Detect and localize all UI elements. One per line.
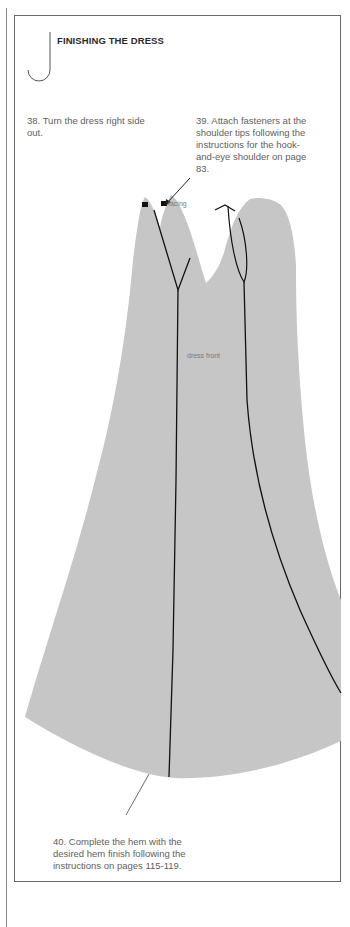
armhole-seam [215, 205, 235, 211]
step-40-text: 40. Complete the hem with the desired he… [53, 836, 193, 872]
leader-line-40 [126, 774, 149, 815]
hook-fastener [142, 202, 148, 207]
dress-illustration [0, 0, 350, 927]
dress-shape [25, 195, 341, 778]
dress-front-label: dress front [187, 352, 220, 359]
facing-label: facing [168, 200, 187, 207]
